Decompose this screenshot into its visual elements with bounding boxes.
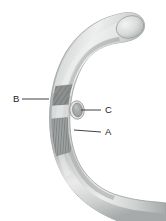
label-c: C <box>105 104 112 115</box>
label-a: A <box>105 126 112 137</box>
label-b: B <box>13 93 20 104</box>
tube-diagram: B C A <box>0 0 166 221</box>
leader-line-a <box>74 130 101 132</box>
figure-container: B C A <box>0 0 166 221</box>
